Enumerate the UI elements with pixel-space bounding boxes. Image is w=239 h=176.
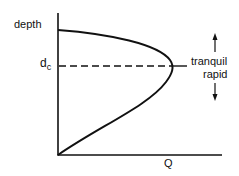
critical-depth-symbol: d	[40, 56, 47, 70]
arrow-up-icon	[213, 33, 218, 52]
critical-depth-label: dc	[40, 57, 51, 70]
arrow-down-icon	[213, 83, 218, 101]
rapid-label: rapid	[203, 68, 227, 80]
critical-depth-subscript: c	[47, 62, 52, 72]
tranquil-label: tranquil	[191, 55, 227, 67]
y-axis-label: depth	[14, 18, 42, 30]
x-axis-label: Q	[164, 157, 173, 169]
depth-curve	[58, 30, 173, 155]
